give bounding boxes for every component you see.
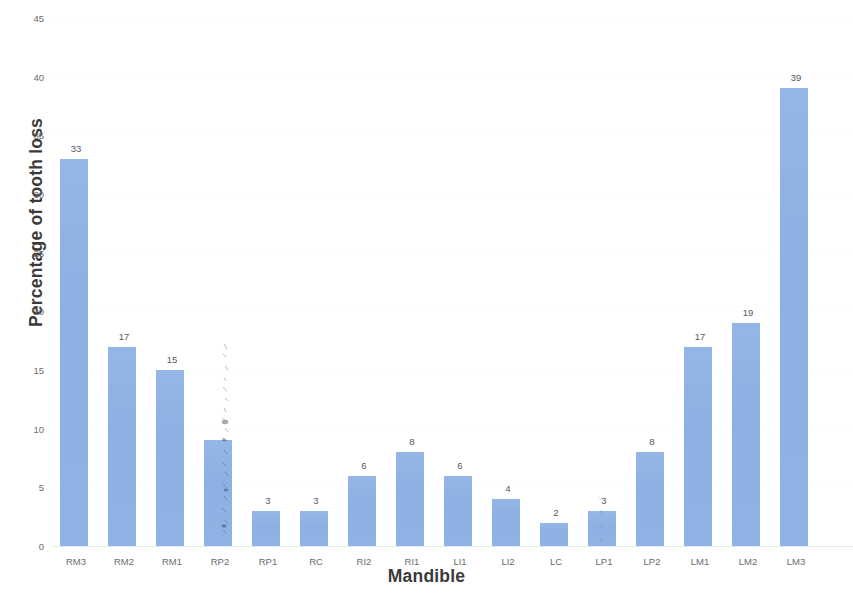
bar-value-label: 17 xyxy=(678,331,722,342)
bar-value-label: 8 xyxy=(390,436,434,447)
bar[interactable] xyxy=(540,523,568,546)
bar-slot: 4 xyxy=(484,0,532,546)
bar-slot: 3 xyxy=(292,0,340,546)
plot-area: 3317159336864238171939 xyxy=(52,0,853,546)
bar-slot: 33 xyxy=(52,0,100,546)
bar[interactable] xyxy=(204,440,232,546)
bar-slot: 8 xyxy=(388,0,436,546)
y-axis-tick-label: 5 xyxy=(22,482,44,493)
bar-slot: 17 xyxy=(100,0,148,546)
bar-slot: 17 xyxy=(676,0,724,546)
bar[interactable] xyxy=(780,88,808,546)
bar-slot: 39 xyxy=(772,0,820,546)
y-axis-tick-label: 0 xyxy=(22,541,44,552)
bar-value-label: 15 xyxy=(150,354,194,365)
bar[interactable] xyxy=(108,347,136,546)
bar[interactable] xyxy=(684,347,712,546)
bar-value-label: 39 xyxy=(774,72,818,83)
bar-slot: 6 xyxy=(436,0,484,546)
bar-value-label: 4 xyxy=(486,483,530,494)
bar-value-label: 2 xyxy=(534,507,578,518)
bar-slot: 15 xyxy=(148,0,196,546)
bar-value-label: 8 xyxy=(630,436,674,447)
y-axis-tick-label: 40 xyxy=(22,71,44,82)
bar-slot: 8 xyxy=(628,0,676,546)
bar-value-label: 6 xyxy=(438,460,482,471)
bar-value-label: 6 xyxy=(342,460,386,471)
bar[interactable] xyxy=(732,323,760,546)
y-axis-tick-label: 10 xyxy=(22,423,44,434)
bar-value-label: 17 xyxy=(102,331,146,342)
bar[interactable] xyxy=(300,511,328,546)
bar-slot: 3 xyxy=(580,0,628,546)
bar[interactable] xyxy=(492,499,520,546)
bar[interactable] xyxy=(156,370,184,546)
bar[interactable] xyxy=(588,511,616,546)
bar-value-label: 3 xyxy=(582,495,626,506)
y-axis-tick-label: 20 xyxy=(22,306,44,317)
y-axis-tick-label: 35 xyxy=(22,130,44,141)
bar[interactable] xyxy=(636,452,664,546)
bar-value-label: 3 xyxy=(246,495,290,506)
bar[interactable] xyxy=(444,476,472,546)
bar-value-label: 3 xyxy=(294,495,338,506)
bar-value-label: 33 xyxy=(54,143,98,154)
y-axis-tick-label: 45 xyxy=(22,13,44,24)
bar[interactable] xyxy=(60,159,88,546)
bar-value-label: 19 xyxy=(726,307,770,318)
bar-slot: 6 xyxy=(340,0,388,546)
y-axis-tick-label: 25 xyxy=(22,247,44,258)
gridline xyxy=(52,546,853,547)
bar-slot: 2 xyxy=(532,0,580,546)
bar[interactable] xyxy=(396,452,424,546)
x-axis-title: Mandible xyxy=(0,566,853,587)
bar-slot: 3 xyxy=(244,0,292,546)
bar-slot: 9 xyxy=(196,0,244,546)
bar-slot: 19 xyxy=(724,0,772,546)
y-axis-title: Percentage of tooth loss xyxy=(26,83,47,363)
bar-chart: Percentage of tooth loss 051015202530354… xyxy=(0,0,853,593)
y-axis-tick-label: 30 xyxy=(22,189,44,200)
y-axis-tick-label: 15 xyxy=(22,365,44,376)
bar[interactable] xyxy=(252,511,280,546)
bar[interactable] xyxy=(348,476,376,546)
